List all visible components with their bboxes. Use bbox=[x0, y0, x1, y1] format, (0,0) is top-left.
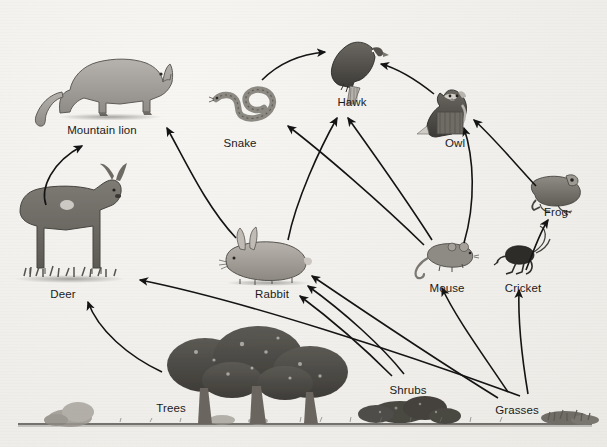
label-grasses: Grasses bbox=[495, 404, 539, 416]
arrow-cricket-to-frog bbox=[526, 220, 548, 270]
label-cricket: Cricket bbox=[505, 282, 541, 294]
arrow-owl-to-hawk bbox=[381, 64, 434, 94]
arrow-mouse-to-snake bbox=[288, 126, 424, 245]
arrow-deer-to-mountain-lion bbox=[45, 146, 83, 205]
label-snake: Snake bbox=[223, 137, 256, 149]
food-web-diagram: Mountain lion Snake Hawk Owl Frog Deer R… bbox=[0, 0, 607, 447]
arrow-snake-to-hawk bbox=[262, 52, 325, 80]
arrow-trees-to-deer bbox=[88, 302, 162, 372]
label-mouse: Mouse bbox=[429, 282, 464, 294]
label-shrubs: Shrubs bbox=[389, 384, 426, 396]
arrow-grasses-to-cricket bbox=[519, 290, 528, 394]
label-owl: Owl bbox=[445, 137, 465, 149]
arrow-grasses-to-mouse bbox=[442, 288, 508, 392]
label-frog: Frog bbox=[544, 206, 568, 218]
food-web-arrows bbox=[0, 0, 607, 447]
arrow-grasses-to-deer bbox=[140, 280, 520, 396]
arrow-mouse-to-owl bbox=[464, 128, 472, 243]
arrow-frog-to-owl bbox=[474, 120, 536, 186]
label-hawk: Hawk bbox=[337, 96, 366, 108]
arrow-shrubs-to-rabbit-2 bbox=[308, 286, 404, 374]
label-rabbit: Rabbit bbox=[255, 288, 289, 300]
label-mountain-lion: Mountain lion bbox=[67, 124, 137, 136]
arrow-mouse-to-hawk bbox=[348, 118, 432, 240]
arrow-rabbit-to-hawk bbox=[288, 118, 337, 240]
label-deer: Deer bbox=[50, 288, 75, 300]
label-trees: Trees bbox=[156, 402, 185, 414]
